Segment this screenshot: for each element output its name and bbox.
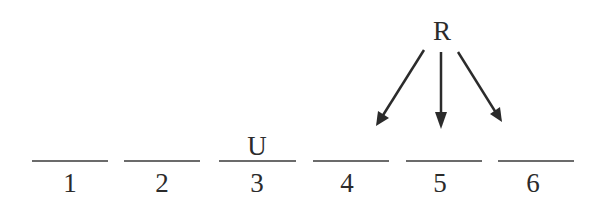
slot-number: 6	[526, 168, 540, 198]
slot-number: 4	[340, 168, 354, 198]
slot-4: 4	[313, 161, 389, 198]
slot-number: 3	[250, 168, 264, 198]
arrow-r-to-4	[376, 50, 424, 126]
slot-number: 2	[155, 168, 169, 198]
slot-2: 2	[124, 161, 200, 198]
slot-label-u: U	[247, 131, 267, 161]
slot-3: U 3	[219, 131, 296, 198]
slot-number: 5	[433, 168, 447, 198]
slot-number: 1	[63, 168, 77, 198]
arrow-r-to-5	[435, 52, 447, 129]
slot-1: 1	[32, 161, 108, 198]
source-label-r: R	[433, 16, 451, 46]
slot-6: 6	[498, 161, 574, 198]
arrowhead-icon	[435, 112, 447, 129]
slot-5: 5	[406, 161, 482, 198]
arrowhead-icon	[490, 107, 502, 122]
diagram-canvas: R 1 2 U 3 4 5 6	[0, 0, 599, 205]
arrowhead-icon	[376, 111, 389, 126]
arrow-r-to-6	[458, 52, 502, 122]
